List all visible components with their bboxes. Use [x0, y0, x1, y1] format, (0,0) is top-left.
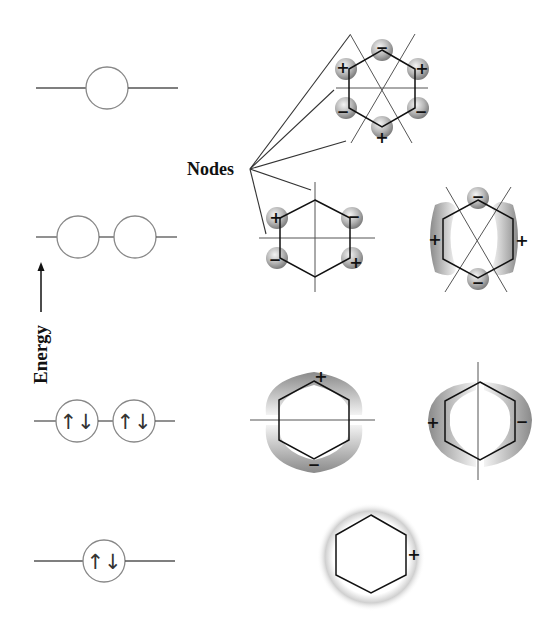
phase-sign: + [269, 208, 282, 227]
phase-sign: + [407, 545, 420, 564]
phase-sign: + [428, 230, 441, 249]
phase-sign: + [314, 367, 327, 386]
electron-pair-icon: ↑↓ [86, 550, 121, 574]
orbital-psi6: − + + − − + [335, 34, 429, 147]
phase-sign: + [375, 128, 388, 147]
energy-level-4: ↑↓ [34, 540, 175, 582]
phase-sign: + [515, 231, 528, 250]
phase-sign: − [472, 188, 485, 206]
phase-sign: − [269, 251, 282, 269]
phase-sign: + [336, 58, 349, 77]
energy-level-3: ↑↓ ↑↓ [34, 400, 175, 442]
phase-sign: − [472, 274, 485, 292]
electron-pair-icon: ↑↓ [116, 410, 151, 434]
energy-axis: Energy [30, 262, 51, 384]
phase-sign: + [349, 253, 362, 272]
phase-sign: − [376, 39, 389, 57]
mo-energy-diagram: ↑↓ ↑↓ ↑↓ Energy Nodes [0, 0, 554, 621]
orbital-psi2: + − [426, 362, 532, 480]
electron-pair-icon: ↑↓ [59, 410, 94, 434]
phase-sign: + [415, 59, 428, 78]
energy-level-2 [36, 216, 177, 258]
orbital-psi3: + − [250, 367, 375, 474]
energy-label: Energy [30, 324, 51, 384]
orbital-psi4: − + + − [428, 187, 528, 292]
nodes-label: Nodes [187, 159, 234, 179]
arrow-head-icon [38, 262, 45, 271]
phase-sign: − [516, 413, 529, 431]
phase-sign: − [337, 103, 350, 121]
phase-sign: − [348, 208, 361, 226]
energy-level-1 [36, 67, 178, 109]
orbital-psi5: + − − + [259, 182, 375, 292]
orbital-psi1: + [317, 503, 425, 611]
phase-sign: − [415, 103, 428, 121]
phase-sign: + [426, 413, 439, 432]
nodes-callout: Nodes [187, 35, 350, 234]
phase-sign: − [308, 456, 321, 474]
